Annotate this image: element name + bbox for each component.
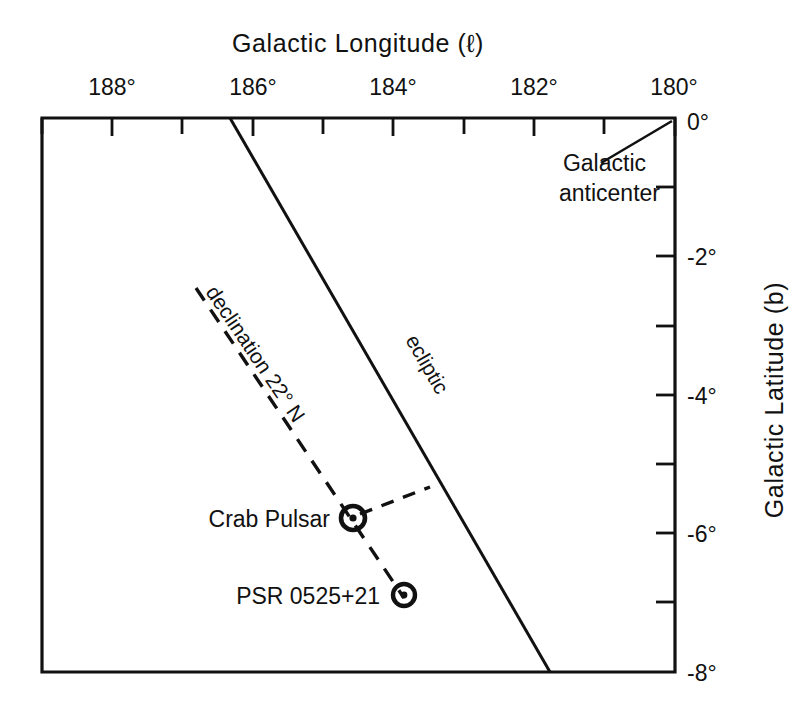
psr-0525-label: PSR 0525+21 <box>236 583 380 609</box>
y-tick-label-minus4: -4° <box>687 383 717 409</box>
marker-psr-0525[interactable] <box>393 584 415 606</box>
x-tick-label-182: 182° <box>510 74 558 100</box>
x-tick-label-180: 180° <box>650 74 698 100</box>
crab-ecliptic-connector <box>360 487 430 514</box>
annotation-galactic-anticenter: Galactic anticenter <box>559 150 660 206</box>
x-axis-title: Galactic Longitude (ℓ) <box>232 29 484 57</box>
anticenter-label-line2: anticenter <box>559 180 660 206</box>
y-tick-labels: 0° -2° -4° -6° -8° <box>687 109 717 686</box>
marker-crab-pulsar[interactable] <box>341 506 365 530</box>
anticenter-label-line1: Galactic <box>563 150 646 176</box>
y-tick-label-minus6: -6° <box>687 521 717 547</box>
declination-label: declination 22° N <box>202 281 310 426</box>
ecliptic-label: ecliptic <box>402 331 454 398</box>
x-tick-label-188: 188° <box>88 74 136 100</box>
x-tick-label-184: 184° <box>369 74 417 100</box>
psr-0525-center-dot <box>401 592 408 599</box>
x-axis-ticks <box>42 118 675 136</box>
y-axis-title: Galactic Latitude (b) <box>760 282 788 518</box>
crab-pulsar-label: Crab Pulsar <box>209 506 331 532</box>
x-tick-labels: 188° 186° 184° 182° 180° <box>88 74 698 100</box>
crab-pulsar-center-dot <box>349 514 356 521</box>
y-tick-label-minus2: -2° <box>687 244 717 270</box>
galactic-coordinates-figure: Galactic Longitude (ℓ) 188° 186° 184° 18… <box>0 0 802 712</box>
y-tick-label-0: 0° <box>687 109 709 135</box>
chart-canvas: Galactic Longitude (ℓ) 188° 186° 184° 18… <box>0 0 802 712</box>
declination-22n-line <box>196 288 404 598</box>
x-tick-label-186: 186° <box>229 74 277 100</box>
y-tick-label-minus8: -8° <box>687 660 717 686</box>
y-axis-ticks <box>656 187 675 602</box>
